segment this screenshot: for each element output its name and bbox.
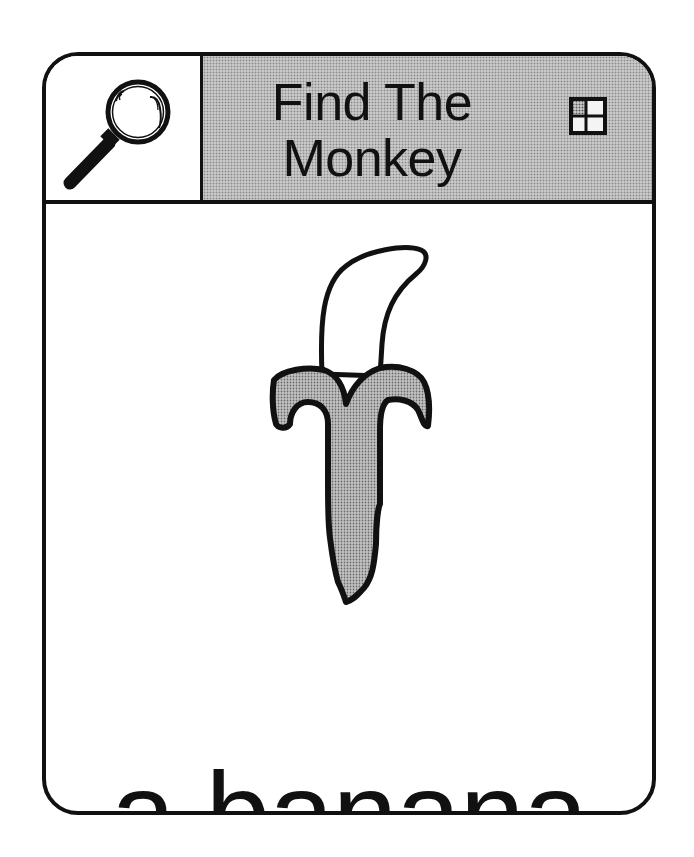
card-body: a banana xyxy=(46,204,652,811)
title-bar: Find The Monkey xyxy=(203,56,652,200)
grid-menu-button[interactable] xyxy=(569,97,607,135)
card-caption: a banana xyxy=(46,756,652,815)
search-button[interactable] xyxy=(46,56,203,200)
title-line-1: Find The xyxy=(203,74,541,130)
grid-icon xyxy=(569,97,607,135)
card-title: Find The Monkey xyxy=(203,74,541,186)
title-line-2: Monkey xyxy=(203,130,541,186)
card-header: Find The Monkey xyxy=(46,56,652,204)
magnifying-glass-icon xyxy=(46,56,200,200)
banana-icon xyxy=(46,204,652,744)
flash-card: Find The Monkey xyxy=(42,52,656,815)
